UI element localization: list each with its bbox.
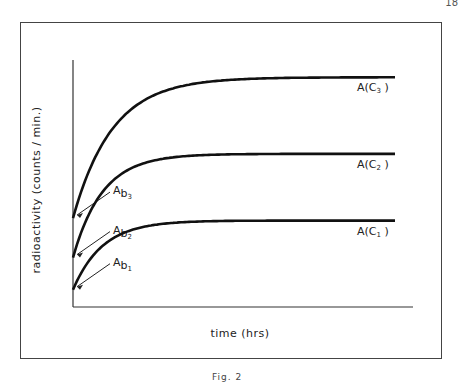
x-axis-label: time (hrs) [210,327,269,340]
curve-label-c1: A(C1 ) [357,225,389,239]
figure-caption: Fig. 2 [212,372,242,382]
diagram: radioactivity (counts / min.) time (hrs)… [0,0,460,382]
arrowhead-c3 [77,213,83,218]
curve-label-c2: A(C2 ) [357,158,389,172]
arrow-c1 [77,264,110,287]
arrowhead-c1 [77,285,83,290]
arrowhead-c2 [77,253,83,258]
y-axis-label: radioactivity (counts / min.) [30,107,43,274]
start-label-c3: Ab3 [113,184,132,201]
curve-label-c3: A(C3 ) [357,81,389,95]
curve-c2 [73,154,395,258]
start-label-c1: Ab1 [113,256,132,273]
